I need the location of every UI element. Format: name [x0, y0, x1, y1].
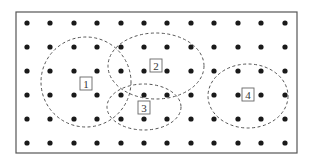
grid-dot: [211, 20, 216, 25]
grid-dot: [164, 44, 169, 49]
grid-dot: [188, 20, 193, 25]
grid-dot: [235, 44, 240, 49]
grid-dot: [47, 20, 52, 25]
grid-dot: [164, 20, 169, 25]
grid-dot: [71, 68, 76, 73]
grid-dot: [282, 140, 287, 145]
grid-dot: [71, 92, 76, 97]
grid-dot: [71, 116, 76, 121]
svg-text:2: 2: [153, 60, 159, 72]
grid-dot: [141, 44, 146, 49]
grid-dot: [258, 116, 263, 121]
grid-dot: [211, 116, 216, 121]
cluster-label-4: 4: [242, 88, 254, 101]
grid-dot: [94, 20, 99, 25]
grid-dot: [24, 140, 29, 145]
grid-dot: [164, 68, 169, 73]
cluster-labels: 1234: [80, 59, 254, 114]
grid-dot: [24, 92, 29, 97]
cluster-label-2: 2: [150, 59, 162, 72]
cluster-diagram: 1234: [0, 0, 312, 166]
grid-dot: [188, 116, 193, 121]
grid-dot: [141, 92, 146, 97]
grid-dot: [118, 116, 123, 121]
dot-grid: [24, 20, 287, 145]
grid-dot: [235, 68, 240, 73]
grid-dot: [47, 68, 52, 73]
grid-dot: [141, 116, 146, 121]
cluster-label-1: 1: [80, 77, 92, 90]
grid-dot: [188, 140, 193, 145]
grid-dot: [47, 92, 52, 97]
grid-dot: [141, 20, 146, 25]
grid-dot: [24, 116, 29, 121]
grid-dot: [118, 20, 123, 25]
cluster-label-3: 3: [138, 101, 150, 114]
grid-dot: [188, 92, 193, 97]
grid-dot: [71, 140, 76, 145]
grid-dot: [24, 20, 29, 25]
grid-dot: [94, 44, 99, 49]
grid-dot: [118, 68, 123, 73]
grid-dot: [235, 140, 240, 145]
svg-text:4: 4: [245, 89, 251, 101]
grid-dot: [235, 116, 240, 121]
grid-dot: [282, 44, 287, 49]
grid-dot: [258, 140, 263, 145]
grid-dot: [211, 92, 216, 97]
grid-dot: [47, 116, 52, 121]
grid-dot: [282, 20, 287, 25]
grid-dot: [71, 44, 76, 49]
grid-dot: [211, 140, 216, 145]
grid-dot: [94, 140, 99, 145]
grid-dot: [71, 20, 76, 25]
grid-dot: [164, 92, 169, 97]
grid-dot: [164, 116, 169, 121]
grid-dot: [94, 116, 99, 121]
svg-text:1: 1: [83, 78, 89, 90]
grid-dot: [47, 140, 52, 145]
grid-dot: [188, 68, 193, 73]
svg-text:3: 3: [141, 102, 147, 114]
grid-dot: [211, 44, 216, 49]
grid-dot: [94, 68, 99, 73]
grid-dot: [118, 44, 123, 49]
grid-dot: [282, 116, 287, 121]
grid-dot: [258, 44, 263, 49]
grid-dot: [211, 68, 216, 73]
grid-dot: [118, 140, 123, 145]
grid-dot: [258, 92, 263, 97]
grid-dot: [282, 92, 287, 97]
grid-dot: [164, 140, 169, 145]
grid-dot: [141, 140, 146, 145]
grid-dot: [24, 44, 29, 49]
grid-dot: [258, 20, 263, 25]
grid-dot: [235, 20, 240, 25]
grid-dot: [141, 68, 146, 73]
grid-dot: [258, 68, 263, 73]
grid-dot: [47, 44, 52, 49]
grid-dot: [282, 68, 287, 73]
grid-dot: [118, 92, 123, 97]
grid-dot: [94, 92, 99, 97]
grid-dot: [24, 68, 29, 73]
grid-dot: [235, 92, 240, 97]
